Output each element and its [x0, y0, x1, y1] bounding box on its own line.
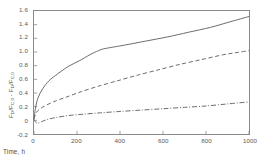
- y-tick-label: 1.0: [0, 48, 28, 54]
- y-tick-label: 0.6: [0, 76, 28, 82]
- data-series-layer: [34, 11, 249, 134]
- x-axis-title: Time, h: [0, 149, 103, 155]
- dash-dot-curve: [34, 102, 249, 123]
- x-tick-label: 200: [61, 138, 91, 144]
- x-tick-label: 400: [105, 138, 135, 144]
- y-tick-label: 0: [0, 118, 28, 124]
- figure-chart: FD/FC,0 - FD/FC,0 -0.200.20.40.60.81.01.…: [0, 0, 260, 162]
- x-tick-label: 1000: [235, 138, 260, 144]
- y-tick-label: 0.2: [0, 104, 28, 110]
- dashed-curve: [34, 51, 249, 119]
- x-tick-label: 600: [148, 138, 178, 144]
- y-tick-label: 1.2: [0, 34, 28, 40]
- y-tick-label: 1.6: [0, 7, 28, 13]
- x-tick-label: 0: [18, 138, 48, 144]
- y-tick-label: 0.8: [0, 62, 28, 68]
- y-tick-label: -0.2: [0, 132, 28, 138]
- solid-curve: [34, 16, 249, 118]
- y-tick-label: 1.4: [0, 21, 28, 27]
- plot-area: [33, 10, 250, 135]
- x-tick-label: 800: [192, 138, 222, 144]
- y-tick-label: 0.4: [0, 90, 28, 96]
